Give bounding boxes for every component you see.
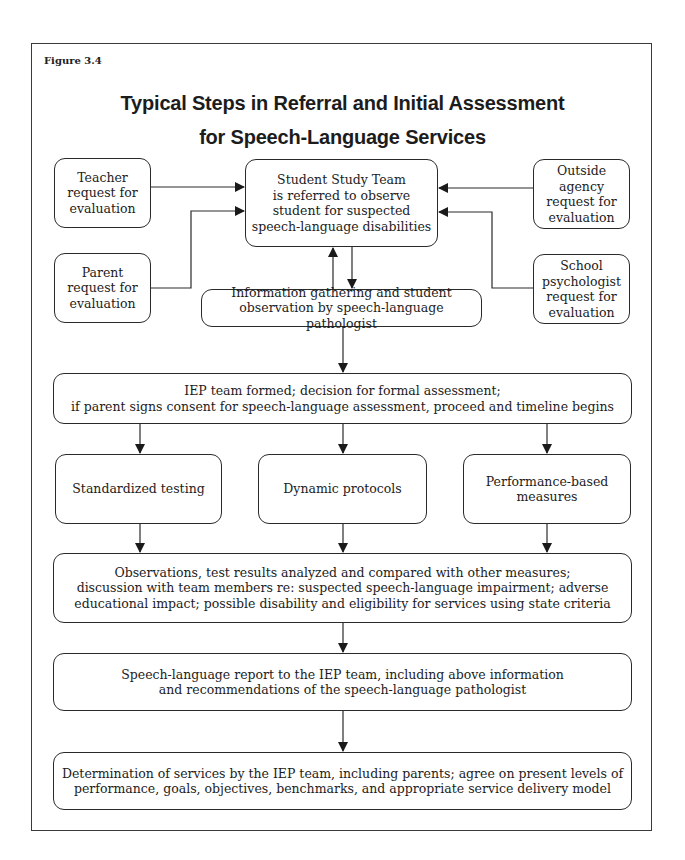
node-teacher-request-label: Teacher request for evaluation	[67, 170, 137, 217]
arrow-school-to-sst	[439, 212, 533, 288]
node-speech-language-report: Speech-language report to the IEP team, …	[53, 653, 632, 711]
connector-lines	[0, 0, 685, 860]
node-outside-agency-request-label: Outside agency request for evaluation	[535, 163, 628, 225]
arrow-parent-to-sst	[151, 211, 244, 288]
node-school-psychologist-request-label: School psychologist request for evaluati…	[542, 258, 621, 320]
node-parent-request-label: Parent request for evaluation	[67, 265, 137, 312]
node-information-gathering: Information gathering and student observ…	[201, 289, 482, 327]
node-speech-language-report-label: Speech-language report to the IEP team, …	[121, 667, 564, 698]
node-observations-analysis: Observations, test results analyzed and …	[53, 553, 632, 623]
node-dynamic-protocols-label: Dynamic protocols	[283, 481, 401, 497]
node-iep-team-formed-label: IEP team formed; decision for formal ass…	[71, 383, 614, 414]
node-student-study-team: Student Study Team is referred to observ…	[245, 159, 438, 247]
node-performance-based-measures: Performance-based measures	[463, 454, 631, 524]
node-determination-of-services-label: Determination of services by the IEP tea…	[62, 766, 623, 797]
node-school-psychologist-request: School psychologist request for evaluati…	[533, 254, 630, 324]
node-dynamic-protocols: Dynamic protocols	[258, 454, 427, 524]
node-information-gathering-label: Information gathering and student observ…	[206, 285, 477, 332]
node-outside-agency-request: Outside agency request for evaluation	[533, 159, 630, 229]
node-standardized-testing-label: Standardized testing	[72, 481, 204, 497]
node-parent-request: Parent request for evaluation	[54, 253, 151, 323]
node-performance-based-measures-label: Performance-based measures	[486, 474, 609, 505]
node-teacher-request: Teacher request for evaluation	[54, 158, 151, 228]
node-standardized-testing: Standardized testing	[55, 454, 222, 524]
node-determination-of-services: Determination of services by the IEP tea…	[53, 752, 632, 810]
node-observations-analysis-label: Observations, test results analyzed and …	[74, 565, 610, 612]
node-iep-team-formed: IEP team formed; decision for formal ass…	[53, 373, 632, 424]
node-student-study-team-label: Student Study Team is referred to observ…	[252, 172, 432, 234]
